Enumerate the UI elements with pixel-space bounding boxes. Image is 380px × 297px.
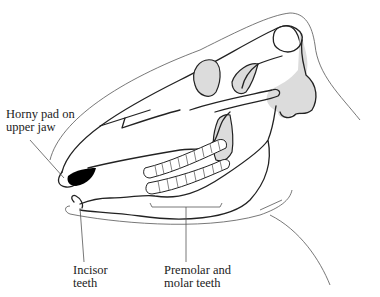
incisor-label: Incisor teeth: [73, 264, 108, 290]
throat-line: [260, 200, 282, 210]
skull-diagram: [0, 0, 380, 297]
neck-outline: [270, 215, 330, 285]
horny-pad-label-line2: upper jaw: [6, 121, 75, 134]
brow-line: [258, 56, 282, 64]
orbit-rim: [273, 26, 302, 52]
nasal-suture: [125, 110, 150, 118]
premolar-bracket: [150, 203, 222, 262]
lacrimal-fossa: [194, 60, 220, 96]
lower-incisor: [72, 195, 83, 208]
horny-pad-label: Horny pad on upper jaw: [6, 108, 75, 134]
premolar-label: Premolar and molar teeth: [164, 264, 231, 290]
horny-pad-pointer: [30, 140, 64, 178]
horny-pad: [67, 168, 96, 186]
premolar-label-line2: molar teeth: [164, 277, 231, 290]
incisor-label-line2: teeth: [73, 277, 108, 290]
